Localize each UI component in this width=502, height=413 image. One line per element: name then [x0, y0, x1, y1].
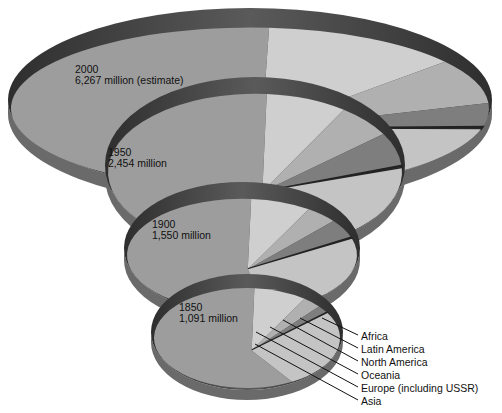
disc-label-1900: 1900 1,550 million	[152, 219, 211, 241]
disc-label-2000: 2000 6,267 million (estimate)	[75, 64, 184, 86]
legend-item-africa: Africa	[361, 331, 388, 342]
legend-item-north-america: North America	[361, 357, 428, 368]
chart-canvas	[0, 0, 502, 413]
legend-item-oceania: Oceania	[361, 370, 400, 381]
population-label: 1,550 million	[152, 230, 211, 241]
disc-label-1950: 1950 2,454 million	[108, 147, 167, 169]
legend-item-europe: Europe (including USSR)	[361, 383, 478, 394]
stacked-pie-chart: 2000 6,267 million (estimate) 1950 2,454…	[0, 0, 502, 413]
legend-item-latin-america: Latin America	[361, 344, 425, 355]
legend-item-asia: Asia	[361, 396, 381, 407]
population-label: 1,091 million	[179, 313, 238, 324]
population-label: 6,267 million (estimate)	[75, 75, 184, 86]
disc-label-1850: 1850 1,091 million	[179, 302, 238, 324]
population-label: 2,454 million	[108, 158, 167, 169]
